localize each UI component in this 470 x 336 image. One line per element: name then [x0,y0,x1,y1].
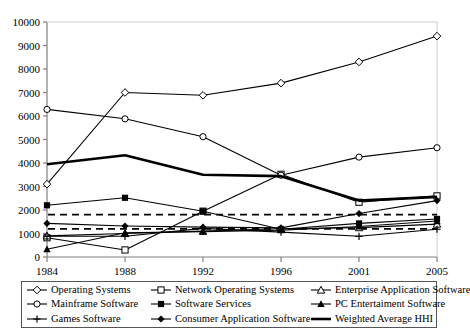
legend-item-label: Weighted Average HHI [335,314,433,325]
series-line [47,155,437,200]
legend-item-label: PC Entertaiment Software [335,299,445,310]
y-axis-tick-label: 9000 [18,40,41,52]
data-point-marker [200,134,206,140]
y-axis-tick-label: 4000 [18,157,41,169]
x-axis-tick-label: 2005 [426,265,449,277]
data-point-marker [44,106,50,112]
y-axis-tick-label: 5000 [18,134,41,146]
legend-item-label: Software Services [175,299,251,310]
series-operating-systems [43,32,441,188]
y-axis-tick-label: 3000 [18,181,41,193]
legend-marker-diamond-filled-icon [150,313,172,325]
legend-item-label: Network Operating Systems [175,285,294,296]
y-axis-tick-label: 0 [35,251,41,263]
series-line [47,36,437,184]
x-axis-tick-label: 1992 [192,265,214,277]
data-point-marker [43,220,50,227]
legend-marker-square-filled-icon [150,298,172,310]
legend-marker-plus-icon [26,313,48,325]
data-point-marker [200,208,206,214]
data-point-marker [44,202,50,208]
y-axis-tick-label: 1000 [18,228,41,240]
legend-item-label: Mainframe Software [51,299,138,310]
y-axis-tick-label: 6000 [18,110,41,122]
legend-item[interactable]: Mainframe Software [26,298,150,310]
legend-item[interactable]: PC Entertaiment Software [310,298,440,310]
legend-marker-square-open-icon [150,284,172,296]
data-point-marker [122,116,128,122]
legend-item[interactable]: Consumer Application Software [150,313,310,325]
legend-item[interactable]: Enterprise Application Software [310,284,440,296]
legend-item-label: Operating Systems [51,285,131,296]
legend-item[interactable]: Weighted Average HHI [310,313,440,325]
y-axis-tick-label: 7000 [18,87,41,99]
series-line [47,198,437,229]
y-axis-tick-label: 8000 [18,63,41,75]
y-axis-tick-label: 2000 [18,204,41,216]
legend-marker-triangle-open-icon [310,284,332,296]
legend-marker-none-icon [310,313,332,325]
legend-item[interactable]: Network Operating Systems [150,284,310,296]
data-point-marker [122,195,128,201]
legend-item[interactable]: Operating Systems [26,284,150,296]
x-axis-tick-label: 1996 [270,265,293,277]
data-point-marker [122,247,128,253]
x-axis-tick-label: 1988 [114,265,137,277]
series-network-operating-systems [44,171,440,253]
legend-marker-diamond-open-icon [26,284,48,296]
legend-item-label: Enterprise Application Software [335,285,470,296]
data-point-marker [355,233,362,240]
legend-item-label: Consumer Application Software [175,314,310,325]
data-point-marker [355,210,362,217]
data-point-marker [356,154,362,160]
y-axis-tick-label: 10000 [13,16,41,28]
data-point-marker [355,58,363,66]
legend-item[interactable]: Software Services [150,298,310,310]
chart-legend: Operating SystemsNetwork Operating Syste… [21,281,437,328]
data-point-marker [199,92,207,100]
series-weighted-average-hhi [47,155,437,200]
x-axis-tick-label: 1984 [36,265,59,277]
data-point-marker [434,145,440,151]
series-line [47,109,437,175]
legend-item-label: Games Software [51,314,121,325]
data-point-marker [433,32,441,40]
x-axis-tick-label: 2001 [348,265,370,277]
legend-item[interactable]: Games Software [26,313,150,325]
legend-marker-triangle-filled-icon [310,298,332,310]
legend-marker-circle-open-icon [26,298,48,310]
data-point-marker [277,79,285,87]
series-line [47,174,437,250]
